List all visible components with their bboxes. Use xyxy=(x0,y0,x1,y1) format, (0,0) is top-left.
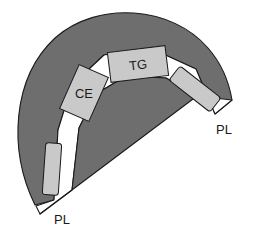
block-tg: TG xyxy=(107,46,168,83)
annotation-pl-bottom-left: PL xyxy=(54,212,70,227)
block-bottom-left-rect xyxy=(42,143,62,196)
schematic-diagram: TG CE PL PL xyxy=(0,0,257,232)
annotation-pl-right: PL xyxy=(216,122,232,137)
block-ce-label: CE xyxy=(75,86,93,101)
block-tg-label: TG xyxy=(128,56,148,73)
schematic-svg: TG CE PL PL xyxy=(0,0,257,232)
block-bottom-left xyxy=(42,143,62,196)
